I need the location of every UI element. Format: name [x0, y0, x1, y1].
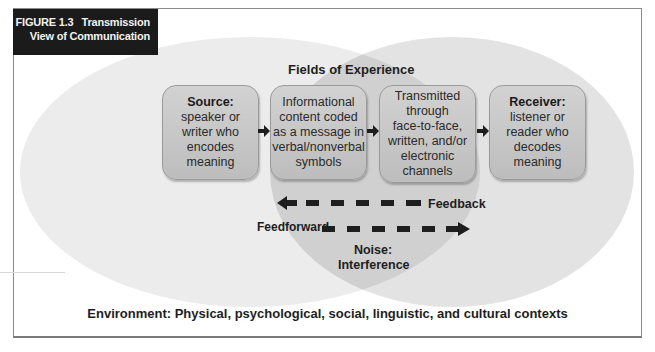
noise-label: Noise: Interference — [338, 243, 408, 273]
box-text: content coded — [279, 110, 358, 125]
arrow-right-icon — [258, 125, 271, 137]
environment-label: Environment: Physical, psychological, so… — [0, 306, 655, 321]
arrow-right-icon — [367, 125, 380, 137]
feedback-arrow-icon — [277, 196, 427, 210]
figure-title: FIGURE 1.3Transmission View of Communica… — [13, 9, 158, 55]
feedback-label: Feedback — [428, 197, 486, 211]
feedforward-arrow-icon — [322, 222, 474, 236]
box-text: listener or — [510, 110, 565, 125]
box-text: verbal/nonverbal — [272, 140, 364, 155]
fields-of-experience-label: Fields of Experience — [288, 62, 414, 77]
box-text: through — [406, 104, 448, 119]
box-text: channels — [402, 164, 452, 179]
channel-box: Transmitted through face-to-face, writte… — [379, 85, 476, 183]
arrow-right-icon — [477, 125, 490, 137]
noise-label-line1: Noise: — [338, 243, 408, 258]
box-text: writer who — [182, 125, 239, 140]
figure-number: FIGURE 1.3 — [16, 16, 74, 28]
box-text: Transmitted — [395, 89, 461, 104]
box-text: decodes — [514, 140, 561, 155]
box-text: Informational — [282, 95, 354, 110]
source-heading: Source: — [187, 95, 234, 110]
box-text: as a message in — [273, 125, 364, 140]
box-text: meaning — [187, 155, 235, 170]
source-box: Source: speaker or writer who encodes me… — [162, 85, 259, 180]
message-box: Informational content coded as a message… — [270, 85, 367, 180]
box-text: speaker or — [181, 110, 240, 125]
noise-label-line2: Interference — [338, 258, 408, 273]
box-text: meaning — [514, 155, 562, 170]
figure-title-line1: Transmission — [81, 16, 150, 28]
receiver-heading: Receiver: — [509, 95, 565, 110]
box-text: reader who — [506, 125, 569, 140]
box-text: written, and/or — [388, 134, 467, 149]
box-text: symbols — [296, 155, 342, 170]
receiver-box: Receiver: listener or reader who decodes… — [489, 85, 586, 180]
box-text: electronic — [401, 149, 455, 164]
figure-title-line2: View of Communication — [13, 29, 150, 43]
box-text: face-to-face, — [393, 119, 462, 134]
box-text: encodes — [187, 140, 234, 155]
feedforward-label: Feedforward — [257, 220, 329, 234]
